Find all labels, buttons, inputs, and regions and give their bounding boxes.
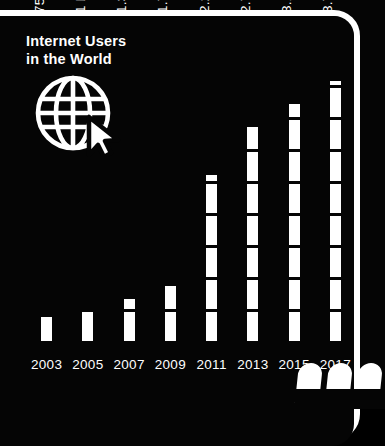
bar-2015[interactable]: [289, 104, 300, 341]
bar-column-2005: 1 billion: [67, 19, 108, 341]
bar-2003[interactable]: [41, 317, 52, 341]
bar-series: 750 million 1 billion 1.3 billion 1.7 bi…: [26, 19, 356, 341]
bar-2009[interactable]: [165, 286, 176, 341]
bar-column-2017: 3.7 billion: [315, 19, 356, 341]
bar-2011[interactable]: [206, 175, 217, 341]
bar-value-label: 750 million: [32, 0, 47, 13]
bar-column-2015: 3.1 billion: [274, 19, 315, 341]
bar-column-2003: 750 million: [26, 19, 67, 341]
x-tick-2007: 2007: [109, 357, 150, 372]
bar-value-label: 1.3 billion: [114, 0, 129, 13]
bar-value-label: 1.7 billion: [155, 0, 170, 13]
bar-column-2007: 1.3 billion: [109, 19, 150, 341]
bar-2013[interactable]: [247, 127, 258, 341]
bar-column-2013: 2.7 billion: [232, 19, 273, 341]
bar-2017[interactable]: [330, 81, 341, 341]
bar-column-2009: 1.7 billion: [150, 19, 191, 341]
x-tick-2003: 2003: [26, 357, 67, 372]
x-tick-2009: 2009: [150, 357, 191, 372]
tabs-bottom-mask: [295, 389, 385, 409]
bar-2007[interactable]: [124, 299, 135, 341]
bar-value-label: 2.7 billion: [238, 0, 253, 13]
bar-chart: 750 million 1 billion 1.3 billion 1.7 bi…: [26, 10, 356, 390]
x-tick-2013: 2013: [232, 357, 273, 372]
bar-value-label: 3.7 billion: [320, 0, 335, 13]
bar-value-label: 3.1 billion: [279, 0, 294, 13]
bar-value-label: 1 billion: [73, 0, 88, 13]
x-tick-2005: 2005: [67, 357, 108, 372]
x-tick-2011: 2011: [191, 357, 232, 372]
bar-column-2011: 2.25 billion: [191, 19, 232, 341]
bar-2005[interactable]: [82, 309, 93, 341]
bar-value-label: 2.25 billion: [197, 0, 212, 13]
